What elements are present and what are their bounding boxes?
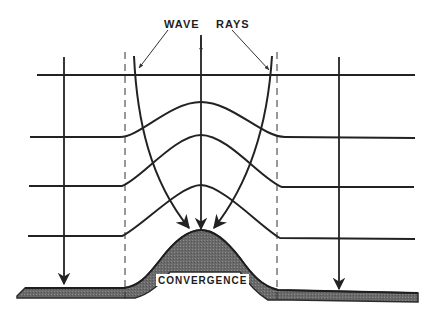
wave-crest-4 [28,185,415,239]
rays-label: RAYS [216,18,250,30]
wave-label-pointer [139,30,168,68]
convergence-label: CONVERGENCE [156,274,249,286]
rays-label-pointer [232,30,269,70]
wave-crest-3 [29,135,414,187]
diagram-drawing [0,0,438,316]
wave-crest-2 [30,102,415,138]
wave-label: WAVE [164,18,200,30]
wave-refraction-diagram: WAVE RAYS CONVERGENCE [0,0,438,316]
